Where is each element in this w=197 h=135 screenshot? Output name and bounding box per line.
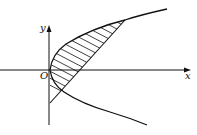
x-axis-label: x [185, 70, 191, 81]
parabola [50, 9, 167, 125]
origin-label: O [40, 70, 48, 81]
diagram-canvas: y x O [0, 0, 197, 135]
x-axis [0, 68, 191, 73]
y-axis-arrow-icon [47, 25, 52, 32]
y-axis-label: y [39, 22, 46, 33]
